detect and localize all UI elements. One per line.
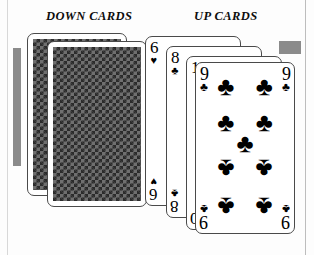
card-rank: 6 <box>150 186 158 202</box>
card-index-bottom-right: 9 ♣ <box>282 203 290 230</box>
card-pip-field: ♣♣♣♣♣♣♣♣♣ <box>213 75 277 221</box>
club-pip-7: ♣ <box>256 155 273 181</box>
card-index-top-right: 9 ♣ <box>282 66 290 93</box>
right-frame-rule <box>305 0 306 255</box>
card-index-top-left: 6 ♥ <box>150 40 158 65</box>
club-pip-5: ♣ <box>236 131 253 157</box>
club-icon: ♣ <box>171 189 178 199</box>
card-back-pattern <box>53 47 141 201</box>
left-frame-rule <box>7 0 8 255</box>
card-rank: 9 <box>200 213 208 230</box>
down-cards-shadow <box>13 48 21 166</box>
card-index-bottom-left: 9 ♣ <box>200 203 208 230</box>
club-pip-9: ♣ <box>256 193 273 219</box>
club-pip-1: ♣ <box>217 74 234 100</box>
club-pip-2: ♣ <box>256 74 273 100</box>
down-card-back-2[interactable] <box>47 41 147 207</box>
club-pip-4: ♣ <box>256 110 273 136</box>
heart-icon: ♥ <box>150 177 157 187</box>
card-index-bottom-left: 8 ♣ <box>171 189 179 214</box>
card-index-top-left: 8 ♣ <box>171 50 179 75</box>
down-cards-heading: DOWN CARDS <box>46 9 132 24</box>
card-index-bottom-left: 6 ♥ <box>150 177 158 202</box>
club-icon: ♣ <box>171 65 178 75</box>
up-card-9-clubs[interactable]: 9 ♣ 9 ♣ 9 ♣ 9 ♣ ♣♣♣♣♣♣♣♣♣ <box>195 62 295 234</box>
club-pip-3: ♣ <box>217 110 234 136</box>
club-icon: ♣ <box>200 203 208 214</box>
club-pip-6: ♣ <box>217 155 234 181</box>
club-icon: ♣ <box>282 203 290 214</box>
up-cards-shadow <box>279 41 301 54</box>
card-index-top-left: 9 ♣ <box>200 66 208 93</box>
club-icon: ♣ <box>282 82 290 93</box>
heart-icon: ♥ <box>150 55 157 65</box>
up-cards-heading: UP CARDS <box>194 9 258 24</box>
club-pip-8: ♣ <box>217 193 234 219</box>
card-rank: 8 <box>171 198 179 214</box>
club-icon: ♣ <box>200 82 208 93</box>
illustration-canvas: DOWN CARDS UP CARDS 6 ♥ 6 ♥ 8 ♣ 8 ♣ 10 ♦ <box>0 0 314 255</box>
card-rank: 9 <box>282 213 290 230</box>
